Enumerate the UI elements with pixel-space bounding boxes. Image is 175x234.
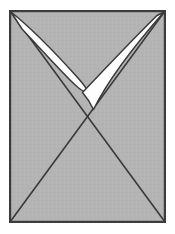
abstract-figure-svg xyxy=(0,0,175,234)
figure-root xyxy=(0,0,175,234)
